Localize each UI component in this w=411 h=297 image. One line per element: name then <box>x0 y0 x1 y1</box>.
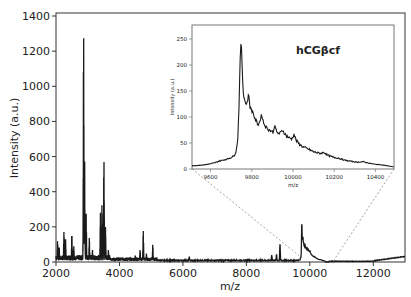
inset-x-tick-label: 10000 <box>284 174 302 180</box>
inset-x-axis: 96009800100001020010400 <box>204 169 385 180</box>
inset-y-tick-label: 50 <box>180 140 187 146</box>
inset-y-tick-label: 0 <box>184 166 188 172</box>
chart-canvas: 0200400600800100012001400 20004000600080… <box>0 0 411 297</box>
main-y-axis: 0200400600800100012001400 <box>22 10 56 269</box>
inset-y-tick-label: 200 <box>177 62 188 68</box>
x-tick-label: 2000 <box>42 267 70 280</box>
x-tick-label: 10000 <box>292 267 327 280</box>
main-x-label: m/z <box>220 280 240 293</box>
y-tick-label: 1000 <box>22 80 50 93</box>
x-tick-label: 8000 <box>232 267 260 280</box>
inset-title: hCGβcf <box>296 44 340 57</box>
inset-y-tick-label: 100 <box>177 114 188 120</box>
y-tick-label: 600 <box>29 151 50 164</box>
y-tick-label: 200 <box>29 221 50 234</box>
inset-x-label: m/z <box>288 182 298 188</box>
zoom-connector-left <box>192 169 302 258</box>
x-tick-label: 6000 <box>169 267 197 280</box>
y-tick-label: 400 <box>29 186 50 199</box>
main-x-axis: 20004000600080001000012000 <box>42 262 391 280</box>
inset-x-tick-label: 9600 <box>204 174 218 180</box>
inset-y-label: Intensity (a.u.) <box>169 79 176 116</box>
zoom-connector-right <box>334 169 394 260</box>
main-y-label: Intensity (a.u.) <box>8 98 21 179</box>
mass-spectrum-chart: 0200400600800100012001400 20004000600080… <box>0 0 411 297</box>
y-tick-label: 800 <box>29 115 50 128</box>
y-tick-label: 1400 <box>22 10 50 23</box>
inset-x-tick-label: 10400 <box>367 174 385 180</box>
y-tick-label: 1200 <box>22 45 50 58</box>
inset-plot-frame <box>192 25 394 169</box>
inset-x-tick-label: 9800 <box>245 174 259 180</box>
x-tick-label: 4000 <box>105 267 133 280</box>
x-tick-label: 12000 <box>356 267 391 280</box>
inset-x-tick-label: 10200 <box>325 174 343 180</box>
inset-y-tick-label: 150 <box>177 88 188 94</box>
inset-y-tick-label: 250 <box>177 36 188 42</box>
inset-y-axis: 050100150200250 <box>177 36 193 172</box>
